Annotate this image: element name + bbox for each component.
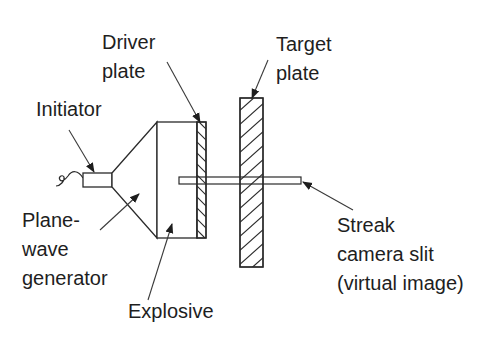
plane-wave-generator-label-line-3: generator (22, 264, 108, 293)
target-plate-label-line-1: Target (276, 30, 332, 59)
initiator-label-line-1: Initiator (36, 95, 102, 124)
detonator-wire (56, 172, 83, 186)
streak-camera-slit-label-line-1: Streak (337, 211, 464, 240)
plane-wave-generator-shape (112, 122, 157, 238)
plane-wave-generator-label-line-2: wave (22, 235, 108, 264)
explosive-label-line-1: Explosive (128, 297, 214, 326)
streak-camera-slit-label-line-2: camera slit (337, 240, 464, 269)
streak-camera-slit-label: Streak camera slit (virtual image) (337, 211, 464, 298)
driver-plate-label-line-2: plate (102, 57, 155, 86)
initiator-box (83, 173, 112, 187)
explosive-block (157, 122, 197, 238)
target-plate-arrow (252, 60, 268, 98)
driver-plate-label: Driver plate (102, 28, 155, 86)
target-plate-label: Target plate (276, 30, 332, 88)
plane-wave-generator-label: Plane- wave generator (22, 206, 108, 293)
driver-plate-shape (195, 118, 208, 241)
initiator-label: Initiator (36, 95, 102, 124)
streak-camera-slit-arrow (303, 182, 353, 210)
initiator-arrow (69, 130, 94, 172)
explosive-label: Explosive (128, 297, 214, 326)
target-plate-label-line-2: plate (276, 59, 332, 88)
driver-plate-arrow (167, 62, 200, 122)
plane-wave-generator-label-line-1: Plane- (22, 206, 108, 235)
driver-plate-label-line-1: Driver (102, 28, 155, 57)
plate-impact-diagram: Driver plate Target plate Initiator Plan… (0, 0, 492, 355)
streak-camera-slit-label-line-3: (virtual image) (337, 269, 464, 298)
diagram-graphics (0, 0, 492, 355)
